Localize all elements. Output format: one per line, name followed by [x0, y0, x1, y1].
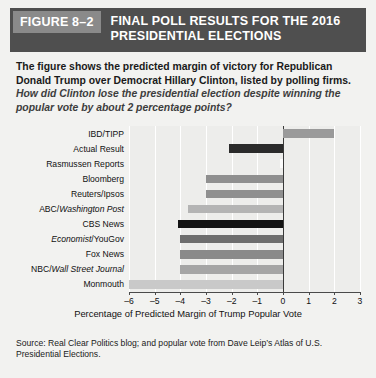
figure-container: FIGURE 8–2 FINAL POLL RESULTS FOR THE 20… [0, 0, 376, 378]
x-axis-tick [155, 292, 156, 295]
figure-header: FIGURE 8–2 FINAL POLL RESULTS FOR THE 20… [10, 8, 366, 52]
x-axis-tick-label: 1 [306, 296, 311, 306]
bar [129, 280, 283, 289]
figure-description: The figure shows the predicted margin of… [16, 60, 360, 114]
category-label: IBD/TIPP [88, 129, 124, 139]
gridline [334, 126, 335, 292]
x-axis-tick-label: –1 [253, 296, 263, 306]
x-axis-title: Percentage of Predicted Margin of Trump … [16, 308, 360, 319]
x-axis-tick [180, 292, 181, 295]
x-axis-tick-label: –3 [201, 296, 211, 306]
x-axis-tick-label: 2 [332, 296, 337, 306]
x-axis-tick [360, 292, 361, 295]
category-label: Monmouth [83, 279, 124, 289]
category-label: Rasmussen Reports [46, 159, 124, 169]
x-axis-tick-label: –6 [124, 296, 134, 306]
category-label: Fox News [86, 249, 124, 259]
x-axis-tick [232, 292, 233, 295]
category-label: Reuters/Ipsos [71, 189, 124, 199]
bar [206, 190, 283, 199]
x-axis-line [129, 292, 360, 293]
plot-area [129, 126, 360, 292]
x-axis-tick [334, 292, 335, 295]
category-label: Economist/YouGov [51, 234, 124, 244]
gridline [309, 126, 310, 292]
bar [178, 220, 283, 229]
bar [229, 144, 283, 153]
bar [283, 129, 334, 138]
x-axis-tick-label: –5 [150, 296, 160, 306]
x-axis-tick [283, 292, 284, 295]
category-axis-labels: IBD/TIPPActual ResultRasmussen ReportsBl… [16, 126, 128, 292]
category-label: ABC/Washington Post [39, 204, 124, 214]
gridline [129, 126, 130, 292]
zero-axis-line [283, 126, 284, 292]
bar [206, 175, 283, 184]
category-label: Actual Result [73, 144, 124, 154]
source-note: Source: Real Clear Politics blog; and po… [16, 338, 360, 360]
category-label: NBC/Wall Street Journal [31, 264, 124, 274]
figure-number-tag: FIGURE 8–2 [13, 11, 101, 33]
x-axis-tick [309, 292, 310, 295]
category-label: CBS News [82, 219, 124, 229]
description-question: How did Clinton lose the presidential el… [16, 88, 340, 113]
x-axis-tick-label: 3 [358, 296, 363, 306]
x-axis-tick-label: –4 [176, 296, 186, 306]
x-axis-tick [206, 292, 207, 295]
x-axis-tick-label: –2 [227, 296, 237, 306]
x-axis-tick [257, 292, 258, 295]
x-axis-tick-label: 0 [281, 296, 286, 306]
figure-title: FINAL POLL RESULTS FOR THE 2016 PRESIDEN… [111, 14, 341, 43]
bar [180, 265, 283, 274]
x-axis-tick [129, 292, 130, 295]
category-label: Bloomberg [82, 174, 124, 184]
gridline [360, 126, 361, 292]
bar [180, 250, 283, 259]
description-bold: The figure shows the predicted margin of… [16, 61, 351, 86]
bar [180, 235, 283, 244]
bar [280, 159, 283, 168]
gridline [155, 126, 156, 292]
bar-chart: IBD/TIPPActual ResultRasmussen ReportsBl… [16, 126, 360, 312]
bar [188, 205, 283, 214]
